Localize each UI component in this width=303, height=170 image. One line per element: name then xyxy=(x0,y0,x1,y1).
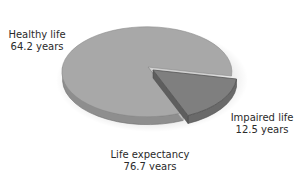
life-expectancy-value: 76.7 years xyxy=(100,161,200,170)
healthy-life-label: Healthy life 64.2 years xyxy=(6,29,68,53)
impaired-life-name: Impaired life xyxy=(224,112,300,124)
impaired-life-label: Impaired life 12.5 years xyxy=(224,112,300,136)
impaired-life-value: 12.5 years xyxy=(224,124,300,136)
life-expectancy-label: Life expectancy 76.7 years xyxy=(100,149,200,170)
pie-chart xyxy=(0,0,303,170)
life-expectancy-name: Life expectancy xyxy=(100,149,200,161)
healthy-life-name: Healthy life xyxy=(6,29,68,41)
healthy-life-value: 64.2 years xyxy=(6,41,68,53)
